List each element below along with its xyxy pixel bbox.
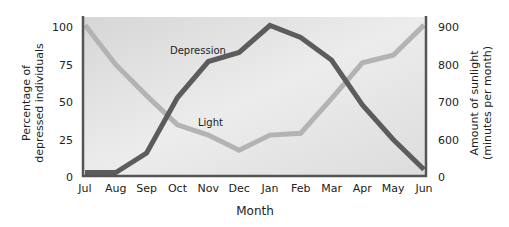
- x-tick-label: Mar: [321, 182, 342, 195]
- right-axis-title: Amount of sunlight (minutes per month): [468, 46, 494, 160]
- right-y-tick-label: 0: [438, 171, 445, 184]
- x-tick-label: May: [382, 182, 405, 195]
- right-y-ticks: 0600700800900: [438, 21, 459, 184]
- left-y-tick-label: 75: [59, 59, 73, 72]
- x-tick-label: Aug: [105, 182, 126, 195]
- depression-series-label: Depression: [170, 45, 226, 56]
- x-tick-label: Nov: [198, 182, 220, 195]
- left-axis-title: Percentage of depressed individuals: [20, 43, 46, 163]
- left-y-tick-label: 25: [59, 134, 73, 147]
- x-tick-label: Feb: [291, 182, 310, 195]
- x-tick-label: Dec: [228, 182, 249, 195]
- right-y-tick-label: 600: [438, 134, 459, 147]
- left-y-tick-label: 100: [52, 21, 73, 34]
- right-y-tick-label: 800: [438, 59, 459, 72]
- left-y-tick-label: 50: [59, 96, 73, 109]
- x-tick-label: Jul: [77, 182, 91, 195]
- light-series-label: Light: [198, 117, 223, 128]
- x-tick-label: Apr: [353, 182, 373, 195]
- right-y-tick-label: 900: [438, 21, 459, 34]
- x-axis-title: Month: [236, 204, 274, 218]
- x-tick-label: Jun: [414, 182, 432, 195]
- x-tick-label: Sep: [136, 182, 157, 195]
- line-chart: 0255075100 0600700800900 JulAugSepOctNov…: [0, 0, 509, 227]
- right-axis-title-line1: Amount of sunlight: [468, 50, 481, 156]
- right-y-tick-label: 700: [438, 96, 459, 109]
- left-y-tick-label: 0: [66, 171, 73, 184]
- left-axis-title-line1: Percentage of: [20, 64, 33, 141]
- x-tick-label: Oct: [168, 182, 188, 195]
- left-y-ticks: 0255075100: [52, 21, 73, 184]
- x-tick-label: Jan: [260, 182, 278, 195]
- x-ticks: JulAugSepOctNovDecJanFebMarAprMayJun: [77, 182, 432, 195]
- right-axis-title-line2: (minutes per month): [481, 46, 494, 160]
- left-axis-title-line2: depressed individuals: [33, 43, 46, 163]
